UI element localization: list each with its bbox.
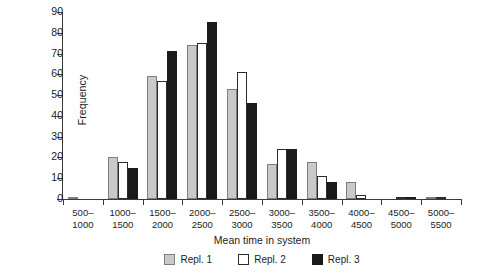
x-axis-tick-label-line: 1000– [103,207,143,219]
y-axis-tick: 20 [0,157,63,158]
y-axis-tick: 50 [0,95,63,96]
y-axis-tick-label: 40 [15,109,63,121]
x-axis-tick-label: 1500–2000 [143,207,183,237]
bar [247,103,257,199]
bar [406,197,416,199]
bar [147,76,157,199]
bar [287,149,297,199]
x-axis-tick-label: 4500–5000 [381,207,421,237]
black-swatch [312,254,323,265]
x-axis-tick-mark [222,199,223,205]
x-axis-title: Mean time in system [63,234,461,246]
x-axis-tick-label: 2000–2500 [182,207,222,237]
bar [327,182,337,199]
x-axis-tick-label: 4000–4500 [342,207,382,237]
x-axis-tick-label-line: 5000 [381,219,421,231]
y-axis-tick-label: 60 [15,67,63,79]
x-axis-tick-mark [143,199,144,205]
x-axis-tick-label-line: 2000 [143,219,183,231]
bar [207,22,217,199]
y-axis-tick: 40 [0,116,63,117]
x-axis-tick-mark [421,199,422,205]
x-axis-tick-label-line: 3000– [262,207,302,219]
bar [346,182,356,199]
bar-group [143,12,183,199]
bar [118,162,128,199]
x-axis-tick-label-line: 4500– [381,207,421,219]
x-axis-tick-mark [302,199,303,205]
x-axis-tick-label: 500–1000 [63,207,103,237]
x-axis-tick-label: 1000–1500 [103,207,143,237]
x-axis-tick-label-line: 3000 [222,219,262,231]
legend-item-label: Repl. 3 [328,254,360,265]
bar-group [302,12,342,199]
white-swatch [238,254,249,265]
bar [167,51,177,199]
x-axis-tick-mark [103,199,104,205]
bar [227,89,237,199]
bar [108,157,118,199]
y-axis-tick-label: 70 [15,47,63,59]
bar [237,72,247,199]
x-axis-tick-mark [342,199,343,205]
bar [356,195,366,199]
legend-item: Repl. 2 [238,254,286,265]
bar [128,168,138,199]
y-axis-tick-label: 10 [15,171,63,183]
x-axis-tick-label-line: 5000– [421,207,461,219]
bar-group [342,12,382,199]
x-axis-tick-mark [63,199,64,205]
bar-groups [63,12,461,199]
x-axis-tick-label: 2500–3000 [222,207,262,237]
x-axis-tick-label-line: 2500 [182,219,222,231]
bar [317,176,327,199]
x-axis-tick-label: 3000–3500 [262,207,302,237]
bar [197,43,207,199]
y-axis-tick: 60 [0,74,63,75]
x-axis-tick-label-line: 2000– [182,207,222,219]
bar [277,149,287,199]
bar-group [182,12,222,199]
x-axis-tick-mark [461,199,462,205]
x-axis-tick-label-line: 4000– [342,207,382,219]
x-axis-tick-mark [182,199,183,205]
y-axis-tick: 10 [0,178,63,179]
y-axis-tick: 80 [0,33,63,34]
bar-group [222,12,262,199]
bar [187,45,197,199]
x-axis-tick-label-line: 4500 [342,219,382,231]
x-axis-tick-label-line: 3500 [262,219,302,231]
y-axis-tick-label: 50 [15,88,63,100]
gray-swatch [164,254,175,265]
bar [396,197,406,199]
x-axis-tick-label-line: 2500– [222,207,262,219]
y-axis-tick: 90 [0,12,63,13]
legend-item-label: Repl. 1 [180,254,212,265]
x-axis-tick-label: 3500–4000 [302,207,342,237]
y-axis-tick: 0 [0,199,63,200]
y-axis-tick-label: 0 [15,192,63,204]
bar-group [103,12,143,199]
y-axis-tick-label: 30 [15,130,63,142]
bar [436,197,446,199]
plot-area [63,12,461,199]
y-axis-tick: 30 [0,137,63,138]
bar [157,81,167,199]
legend-item: Repl. 1 [164,254,212,265]
x-axis-tick-label-line: 1500 [103,219,143,231]
x-axis-tick-label-line: 5500 [421,219,461,231]
legend-item: Repl. 3 [312,254,360,265]
y-axis-tick-label: 80 [15,26,63,38]
x-axis-tick-labels: 500–10001000–15001500–20002000–25002500–… [63,207,461,237]
x-axis-tick-label-line: 3500– [302,207,342,219]
y-axis-tick-label: 20 [15,150,63,162]
y-axis-tick: 70 [0,54,63,55]
x-axis-tick-label: 5000–5500 [421,207,461,237]
bar-group [262,12,302,199]
bar-group [381,12,421,199]
x-axis-tick-label-line: 4000 [302,219,342,231]
x-axis-tick-label-line: 1000 [63,219,103,231]
bar [426,197,436,199]
bar-chart-figure: Frequency 0102030405060708090 500–100010… [0,0,483,279]
x-axis-tick-label-line: 1500– [143,207,183,219]
